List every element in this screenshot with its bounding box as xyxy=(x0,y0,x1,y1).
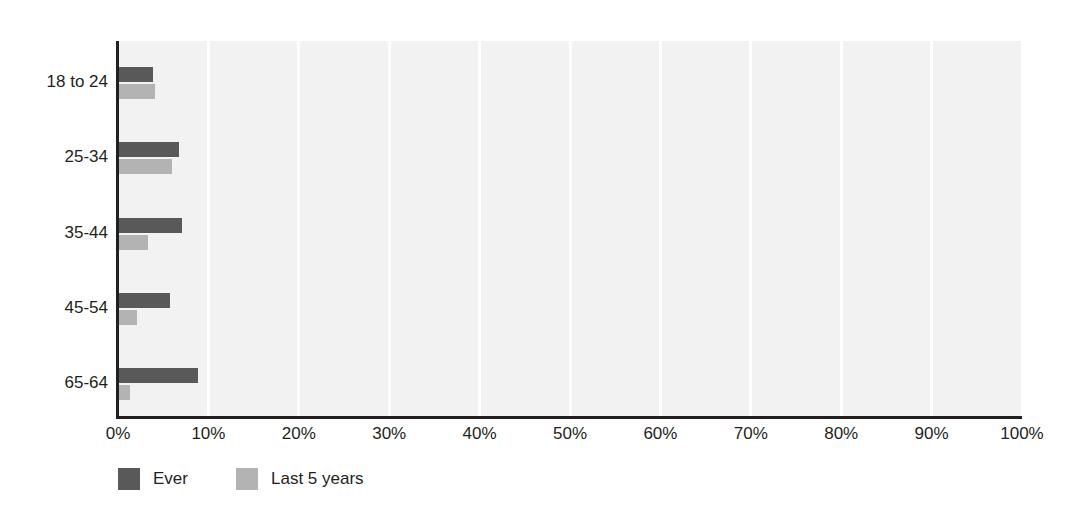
x-axis-tick-label: 60% xyxy=(620,424,700,444)
y-axis-tick-label: 18 to 24 xyxy=(8,72,108,92)
y-axis-line xyxy=(116,41,119,418)
bar-group xyxy=(118,142,1022,174)
legend-swatch-ever xyxy=(118,468,140,490)
x-axis-tick-label: 0% xyxy=(78,424,158,444)
legend-item-ever: Ever xyxy=(118,468,188,490)
chart-legend: Ever Last 5 years xyxy=(118,468,412,490)
bar-ever xyxy=(118,368,198,383)
bar-ever xyxy=(118,218,182,233)
legend-swatch-last-5-years xyxy=(236,468,258,490)
x-axis-tick-label: 100% xyxy=(982,424,1062,444)
x-axis-tick-label: 40% xyxy=(440,424,520,444)
x-axis-tick-label: 10% xyxy=(168,424,248,444)
bar-group xyxy=(118,293,1022,325)
bar-chart: 18 to 2425-3435-4445-5465-64 0%10%20%30%… xyxy=(0,0,1075,515)
legend-label-last-5-years: Last 5 years xyxy=(271,469,364,489)
x-axis-tick-label: 20% xyxy=(259,424,339,444)
bar-group xyxy=(118,368,1022,400)
bar-group xyxy=(118,67,1022,99)
y-axis-tick-label: 35-44 xyxy=(8,223,108,243)
bar-ever xyxy=(118,142,179,157)
bar-last-5-years xyxy=(118,159,172,174)
x-axis-tick-label: 50% xyxy=(530,424,610,444)
x-axis-tick-label: 70% xyxy=(711,424,791,444)
y-axis-tick-label: 45-54 xyxy=(8,298,108,318)
bar-last-5-years xyxy=(118,385,130,400)
x-axis-line xyxy=(116,416,1022,419)
x-axis-tick-label: 30% xyxy=(349,424,429,444)
bar-last-5-years xyxy=(118,84,155,99)
plot-area xyxy=(118,41,1022,418)
bar-last-5-years xyxy=(118,310,137,325)
bar-last-5-years xyxy=(118,235,148,250)
bar-ever xyxy=(118,67,153,82)
bar-group xyxy=(118,218,1022,250)
y-axis-tick-label: 25-34 xyxy=(8,147,108,167)
y-axis-tick-label: 65-64 xyxy=(8,373,108,393)
legend-label-ever: Ever xyxy=(153,469,188,489)
x-axis-tick-label: 80% xyxy=(801,424,881,444)
legend-item-last-5-years: Last 5 years xyxy=(236,468,364,490)
bar-ever xyxy=(118,293,170,308)
x-axis-tick-label: 90% xyxy=(892,424,972,444)
